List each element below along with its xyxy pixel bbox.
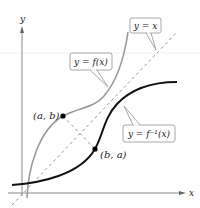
callout-f-inverse: y = f⁻¹(x) [123,106,175,142]
identity-label: y = x [133,21,157,31]
point-a-b-label: (a, b) [33,110,60,121]
x-axis-arrow-icon [179,191,186,195]
y-axis-label: y [19,14,26,24]
x-axis [8,191,186,195]
f-label: y = f(x) [73,57,108,67]
x-axis-label: x [189,188,194,198]
callout-f: y = f(x) [70,53,112,87]
point-a-b [60,113,65,118]
f-inverse-label: y = f⁻¹(x) [127,129,171,139]
callout-identity: y = x [130,18,161,50]
reflection-segment [63,116,95,149]
inverse-function-diagram: y x (a, b) (b, a) y = x y = f(x) y = f⁻¹… [0,0,200,208]
y-axis [20,26,24,196]
point-b-a [92,146,97,151]
y-axis-arrow-icon [20,26,24,33]
point-b-a-label: (b, a) [100,149,127,160]
